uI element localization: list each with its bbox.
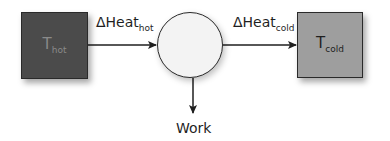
cold-reservoir-label: Tcold xyxy=(316,36,344,54)
heat-engine-diagram: Thot Tcold ΔHeathot ΔHeatcold Work xyxy=(0,0,390,141)
heat-out-label: ΔHeatcold xyxy=(233,15,294,33)
hot-reservoir-label: Thot xyxy=(43,37,67,55)
heat-in-label: ΔHeathot xyxy=(96,15,154,33)
cold-reservoir: Tcold xyxy=(297,12,363,78)
work-label: Work xyxy=(176,121,211,135)
engine-circle xyxy=(157,12,223,78)
hot-reservoir: Thot xyxy=(21,12,88,79)
